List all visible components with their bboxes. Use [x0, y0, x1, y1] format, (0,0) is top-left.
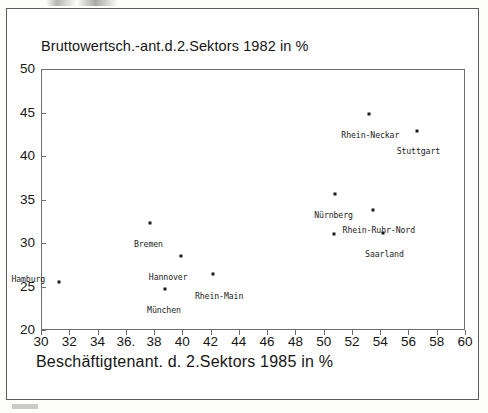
y-axis-tick-labels: 20253035404550	[5, 69, 35, 330]
y-axis-tick	[41, 156, 46, 157]
y-axis-tick	[41, 243, 46, 244]
y-axis-tick-label: 45	[7, 105, 35, 120]
y-axis-tick-label: 30	[7, 235, 35, 250]
chart-title: Bruttowertsch.-ant.d.2.Sektors 1982 in %	[41, 38, 309, 54]
data-point	[332, 233, 335, 236]
data-point	[367, 113, 370, 116]
data-point	[164, 288, 167, 291]
x-axis-tick-label: 46	[260, 334, 275, 349]
x-axis-tick-label: 34	[90, 334, 105, 349]
x-axis-tick	[408, 330, 409, 335]
data-point-label: Rhein-Ruhr-Nord	[343, 225, 415, 235]
x-axis-tick-label: 52	[344, 334, 359, 349]
x-axis-tick-label: 60	[457, 334, 472, 349]
scan-artifact-bottom	[12, 404, 38, 409]
x-axis-tick	[465, 330, 466, 335]
x-axis-tick-label: 58	[429, 334, 444, 349]
x-axis-tick	[211, 330, 212, 335]
y-axis-tick	[41, 200, 46, 201]
data-point	[148, 221, 151, 224]
data-point-label: Rhein-Neckar	[341, 130, 399, 140]
x-axis-tick	[69, 330, 70, 335]
y-axis-tick-label: 40	[7, 148, 35, 163]
x-axis-tick-labels: 30323436.384042444648505254565860	[41, 334, 465, 352]
data-point	[212, 273, 215, 276]
x-axis-tick-label: 38	[147, 334, 162, 349]
x-axis-tick	[182, 330, 183, 335]
data-point	[333, 193, 336, 196]
x-axis-tick	[295, 330, 296, 335]
scan-artifact-top	[46, 0, 136, 6]
data-point	[382, 232, 385, 235]
data-point	[179, 255, 182, 258]
x-axis-tick	[98, 330, 99, 335]
data-point	[58, 281, 61, 284]
plot-area: HamburgBremenMünchenHannoverRhein-MainNü…	[41, 69, 465, 330]
x-axis-tick-label: 36.	[116, 334, 135, 349]
x-axis-tick	[352, 330, 353, 335]
x-axis-tick-label: 40	[175, 334, 190, 349]
y-axis-tick-label: 35	[7, 192, 35, 207]
data-point-label: Hamburg	[11, 274, 45, 284]
x-axis-tick-label: 50	[316, 334, 331, 349]
y-axis-tick	[41, 69, 46, 70]
x-axis-tick	[126, 330, 127, 335]
data-point-label: Stuttgart	[397, 146, 440, 156]
x-axis-tick	[380, 330, 381, 335]
y-axis-tick-label: 20	[7, 322, 35, 337]
x-axis-title: Beschäftigtenant. d. 2.Sektors 1985 in %	[36, 353, 333, 371]
x-axis-tick-label: 30	[33, 334, 48, 349]
x-axis-tick-label: 32	[62, 334, 77, 349]
x-axis-tick	[41, 330, 42, 335]
x-axis-tick-label: 42	[203, 334, 218, 349]
x-axis-tick	[267, 330, 268, 335]
y-axis-tick	[41, 287, 46, 288]
chart-page: Bruttowertsch.-ant.d.2.Sektors 1982 in %…	[0, 0, 488, 413]
x-axis-tick-label: 48	[288, 334, 303, 349]
x-axis-tick	[154, 330, 155, 335]
data-point-label: Nürnberg	[314, 210, 353, 220]
data-point-label: München	[147, 305, 181, 315]
data-point	[415, 129, 418, 132]
data-point-label: Bremen	[134, 239, 163, 249]
x-axis-tick-label: 44	[231, 334, 246, 349]
data-point	[372, 208, 375, 211]
y-axis-tick	[41, 113, 46, 114]
x-axis-tick	[324, 330, 325, 335]
data-point-label: Hannover	[149, 272, 188, 282]
x-axis-tick	[239, 330, 240, 335]
x-axis-tick-label: 56	[401, 334, 416, 349]
x-axis-tick	[437, 330, 438, 335]
x-axis-tick-label: 54	[373, 334, 388, 349]
y-axis-tick-label: 50	[7, 61, 35, 76]
data-point-label: Saarland	[365, 249, 404, 259]
data-point-label: Rhein-Main	[195, 291, 243, 301]
